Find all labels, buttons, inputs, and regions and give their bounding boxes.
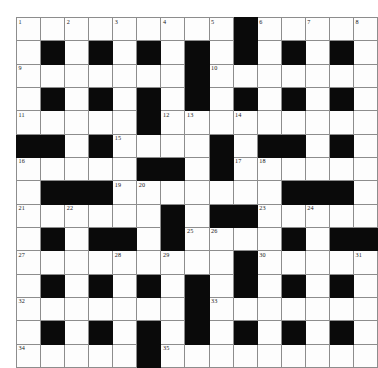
letter-cell[interactable] bbox=[257, 321, 281, 344]
letter-cell[interactable] bbox=[185, 134, 209, 157]
letter-cell[interactable] bbox=[257, 181, 281, 204]
letter-cell[interactable] bbox=[209, 181, 233, 204]
letter-cell[interactable] bbox=[209, 251, 233, 274]
letter-cell[interactable] bbox=[281, 111, 305, 134]
letter-cell[interactable] bbox=[305, 321, 329, 344]
letter-cell[interactable]: 6 bbox=[257, 18, 281, 41]
letter-cell[interactable] bbox=[329, 251, 353, 274]
letter-cell[interactable]: 35 bbox=[161, 344, 185, 367]
letter-cell[interactable]: 8 bbox=[353, 18, 377, 41]
letter-cell[interactable] bbox=[65, 251, 89, 274]
letter-cell[interactable] bbox=[41, 157, 65, 180]
letter-cell[interactable] bbox=[209, 111, 233, 134]
letter-cell[interactable] bbox=[113, 87, 137, 110]
letter-cell[interactable] bbox=[305, 111, 329, 134]
letter-cell[interactable] bbox=[89, 251, 113, 274]
letter-cell[interactable] bbox=[41, 344, 65, 367]
letter-cell[interactable] bbox=[137, 227, 161, 250]
letter-cell[interactable]: 19 bbox=[113, 181, 137, 204]
letter-cell[interactable] bbox=[353, 134, 377, 157]
letter-cell[interactable] bbox=[17, 181, 41, 204]
letter-cell[interactable] bbox=[41, 111, 65, 134]
letter-cell[interactable] bbox=[257, 274, 281, 297]
letter-cell[interactable] bbox=[257, 64, 281, 87]
letter-cell[interactable] bbox=[113, 297, 137, 320]
letter-cell[interactable] bbox=[281, 18, 305, 41]
letter-cell[interactable] bbox=[17, 274, 41, 297]
letter-cell[interactable] bbox=[257, 297, 281, 320]
letter-cell[interactable] bbox=[353, 321, 377, 344]
letter-cell[interactable]: 16 bbox=[17, 157, 41, 180]
letter-cell[interactable]: 33 bbox=[209, 297, 233, 320]
letter-cell[interactable] bbox=[65, 321, 89, 344]
letter-cell[interactable]: 26 bbox=[209, 227, 233, 250]
letter-cell[interactable] bbox=[233, 297, 257, 320]
letter-cell[interactable] bbox=[185, 344, 209, 367]
letter-cell[interactable] bbox=[329, 204, 353, 227]
letter-cell[interactable] bbox=[137, 134, 161, 157]
letter-cell[interactable] bbox=[65, 41, 89, 64]
letter-cell[interactable] bbox=[353, 204, 377, 227]
letter-cell[interactable] bbox=[65, 274, 89, 297]
letter-cell[interactable]: 17 bbox=[233, 157, 257, 180]
letter-cell[interactable] bbox=[329, 111, 353, 134]
letter-cell[interactable] bbox=[305, 297, 329, 320]
letter-cell[interactable] bbox=[257, 87, 281, 110]
letter-cell[interactable] bbox=[113, 41, 137, 64]
letter-cell[interactable] bbox=[353, 181, 377, 204]
letter-cell[interactable] bbox=[185, 18, 209, 41]
letter-cell[interactable]: 28 bbox=[113, 251, 137, 274]
letter-cell[interactable] bbox=[65, 111, 89, 134]
letter-cell[interactable] bbox=[257, 41, 281, 64]
letter-cell[interactable]: 24 bbox=[305, 204, 329, 227]
letter-cell[interactable] bbox=[329, 344, 353, 367]
letter-cell[interactable] bbox=[161, 41, 185, 64]
letter-cell[interactable]: 34 bbox=[17, 344, 41, 367]
letter-cell[interactable]: 9 bbox=[17, 64, 41, 87]
letter-cell[interactable] bbox=[113, 64, 137, 87]
letter-cell[interactable] bbox=[353, 344, 377, 367]
letter-cell[interactable]: 7 bbox=[305, 18, 329, 41]
letter-cell[interactable] bbox=[329, 64, 353, 87]
letter-cell[interactable] bbox=[209, 321, 233, 344]
letter-cell[interactable]: 27 bbox=[17, 251, 41, 274]
letter-cell[interactable] bbox=[305, 41, 329, 64]
letter-cell[interactable] bbox=[41, 204, 65, 227]
letter-cell[interactable] bbox=[281, 204, 305, 227]
letter-cell[interactable] bbox=[353, 157, 377, 180]
letter-cell[interactable] bbox=[17, 41, 41, 64]
letter-cell[interactable] bbox=[89, 297, 113, 320]
letter-cell[interactable] bbox=[113, 157, 137, 180]
crossword-grid[interactable]: 1234567891011121314151617181920212223242… bbox=[16, 17, 378, 368]
letter-cell[interactable] bbox=[257, 344, 281, 367]
letter-cell[interactable] bbox=[17, 87, 41, 110]
letter-cell[interactable]: 22 bbox=[65, 204, 89, 227]
letter-cell[interactable] bbox=[305, 87, 329, 110]
letter-cell[interactable] bbox=[353, 297, 377, 320]
letter-cell[interactable] bbox=[233, 344, 257, 367]
letter-cell[interactable] bbox=[113, 321, 137, 344]
letter-cell[interactable] bbox=[65, 134, 89, 157]
letter-cell[interactable] bbox=[185, 181, 209, 204]
letter-cell[interactable] bbox=[89, 18, 113, 41]
letter-cell[interactable] bbox=[185, 251, 209, 274]
letter-cell[interactable]: 30 bbox=[257, 251, 281, 274]
letter-cell[interactable] bbox=[161, 297, 185, 320]
letter-cell[interactable] bbox=[233, 181, 257, 204]
letter-cell[interactable] bbox=[257, 111, 281, 134]
letter-cell[interactable] bbox=[305, 251, 329, 274]
letter-cell[interactable]: 14 bbox=[233, 111, 257, 134]
letter-cell[interactable]: 18 bbox=[257, 157, 281, 180]
letter-cell[interactable] bbox=[209, 41, 233, 64]
letter-cell[interactable] bbox=[353, 111, 377, 134]
letter-cell[interactable] bbox=[41, 297, 65, 320]
letter-cell[interactable] bbox=[233, 227, 257, 250]
letter-cell[interactable] bbox=[89, 204, 113, 227]
letter-cell[interactable] bbox=[113, 274, 137, 297]
letter-cell[interactable]: 13 bbox=[185, 111, 209, 134]
letter-cell[interactable]: 32 bbox=[17, 297, 41, 320]
letter-cell[interactable] bbox=[329, 297, 353, 320]
letter-cell[interactable] bbox=[209, 274, 233, 297]
letter-cell[interactable]: 31 bbox=[353, 251, 377, 274]
letter-cell[interactable] bbox=[209, 344, 233, 367]
